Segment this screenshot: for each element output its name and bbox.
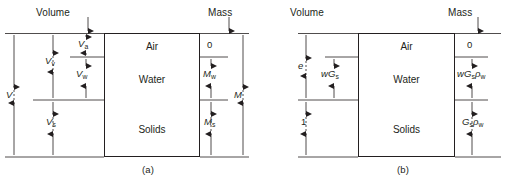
- panel-b-volume-header: Volume: [290, 8, 324, 18]
- panel-b-caption: (b): [397, 165, 409, 175]
- panel-a-caption: (a): [142, 165, 154, 175]
- panel-a-phase-air: Air: [105, 34, 199, 58]
- panel-a-volume-air-label: Va: [78, 39, 88, 49]
- panel-a-phase-water-label: Water: [139, 74, 165, 85]
- panel-a-mass-air-label: 0: [207, 40, 212, 50]
- panel-b-mass-header: Mass: [448, 8, 472, 18]
- panel-a-mass-water-label: Mw: [203, 69, 216, 79]
- panel-b-phase-water: Water: [359, 58, 454, 101]
- phase-diagram-figure: Air Water Solids Volume Mass V Vv Va Vw …: [0, 0, 506, 184]
- panel-b-phase-solids-label: Solids: [393, 124, 420, 135]
- panel-a-volume-total-label: V: [6, 90, 12, 100]
- panel-b-mass-water-label: wGsρw: [457, 69, 486, 79]
- panel-b-phase-solids: Solids: [359, 101, 454, 158]
- panel-a-phase-box: Air Water Solids: [104, 33, 200, 157]
- panel-b-volume-solids-label: 1: [301, 117, 306, 127]
- panel-b-phase-air-label: Air: [400, 41, 412, 52]
- panel-a-phase-solids: Solids: [105, 101, 199, 158]
- panel-a-mass-solids-label: Ms: [204, 117, 216, 127]
- panel-a-volume-water-label: Vw: [76, 69, 87, 79]
- panel-a-phase-solids-label: Solids: [138, 124, 165, 135]
- panel-a-volume-voids-label: Vv: [45, 56, 55, 66]
- panel-b-mass-solids-label: Gsρw: [462, 117, 484, 127]
- panel-a-volume-header: Volume: [36, 8, 70, 18]
- panel-b-mass-air-label: 0: [467, 40, 472, 50]
- panel-a-mass-header: Mass: [208, 8, 232, 18]
- panel-b-phase-water-label: Water: [393, 74, 419, 85]
- panel-a-mass-total-label: M: [234, 90, 242, 100]
- panel-b-volume-water-label: wGs: [321, 69, 339, 79]
- panel-a-phase-water: Water: [105, 58, 199, 101]
- panel-b-volume-voids-label: e: [298, 61, 303, 71]
- panel-b-phase-box: Air Water Solids: [358, 33, 455, 157]
- panel-b-phase-air: Air: [359, 34, 454, 58]
- panel-a-phase-air-label: Air: [146, 41, 158, 52]
- panel-a-volume-solids-label: Vs: [46, 117, 56, 127]
